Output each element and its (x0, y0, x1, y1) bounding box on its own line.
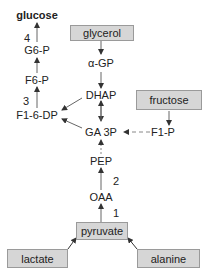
node-g6p: G6-P (24, 44, 50, 56)
node-fructose: fructose (136, 90, 202, 110)
node-oaa: OAA (89, 191, 112, 203)
node-glycerol: glycerol (70, 25, 134, 41)
node-f6p: F6-P (25, 74, 49, 86)
node-ga3p: GA 3P (85, 126, 117, 138)
step-4-label: 4 (24, 32, 30, 44)
node-alanine: alanine (137, 249, 200, 268)
node-glucose: glucose (16, 9, 58, 21)
node-pyruvate: pyruvate (76, 222, 128, 240)
node-alpha-gp: α-GP (88, 57, 114, 69)
node-dhap: DHAP (86, 89, 117, 101)
node-f1p: F1-P (151, 126, 175, 138)
step-1-label: 1 (113, 207, 119, 219)
step-2-label: 2 (113, 175, 119, 187)
node-lactate: lactate (7, 249, 68, 268)
step-3-label: 3 (23, 95, 29, 107)
node-pep: PEP (90, 155, 112, 167)
node-f16dp: F1-6-DP (16, 109, 58, 121)
